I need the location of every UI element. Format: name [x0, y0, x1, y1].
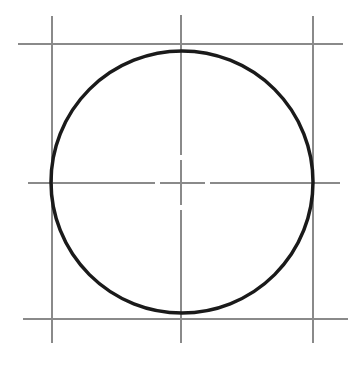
inscribed-circle-diagram: [0, 0, 357, 369]
